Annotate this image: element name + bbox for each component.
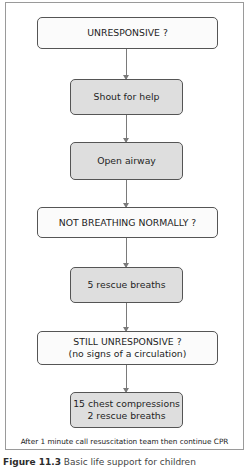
node-subtext: (no signs of a circulation) [69, 348, 187, 360]
node-text: NOT BREATHING NORMALLY ? [59, 217, 197, 229]
node-text: 15 chest compressions [73, 398, 180, 410]
node-rescue-breaths: 5 rescue breaths [70, 267, 183, 303]
connector-arrow [126, 238, 128, 267]
node-unresponsive: UNRESPONSIVE ? [37, 17, 218, 49]
node-text: 5 rescue breaths [87, 279, 165, 291]
connector-arrow [126, 115, 128, 142]
figure-label: Figure 11.3 [3, 457, 61, 467]
node-not-breathing: NOT BREATHING NORMALLY ? [37, 207, 218, 238]
connector-arrow [126, 365, 128, 392]
node-shout-for-help: Shout for help [70, 79, 183, 115]
node-still-unresponsive: STILL UNRESPONSIVE ? (no signs of a circ… [37, 331, 218, 365]
connector-arrow [126, 180, 128, 207]
node-subtext: 2 rescue breaths [87, 410, 165, 422]
node-text: Shout for help [94, 91, 160, 103]
node-text: STILL UNRESPONSIVE ? [73, 336, 181, 348]
figure-caption-text: Basic life support for children [64, 457, 196, 467]
figure-caption: Figure 11.3 Basic life support for child… [3, 457, 196, 467]
node-chest-compressions: 15 chest compressions 2 rescue breaths [70, 392, 183, 428]
node-open-airway: Open airway [70, 142, 183, 180]
node-text: Open airway [97, 155, 156, 167]
flowchart-footer-note: After 1 minute call resuscitation team t… [5, 437, 244, 446]
node-text: UNRESPONSIVE ? [87, 27, 168, 39]
connector-arrow [126, 49, 128, 79]
connector-arrow [126, 303, 128, 331]
